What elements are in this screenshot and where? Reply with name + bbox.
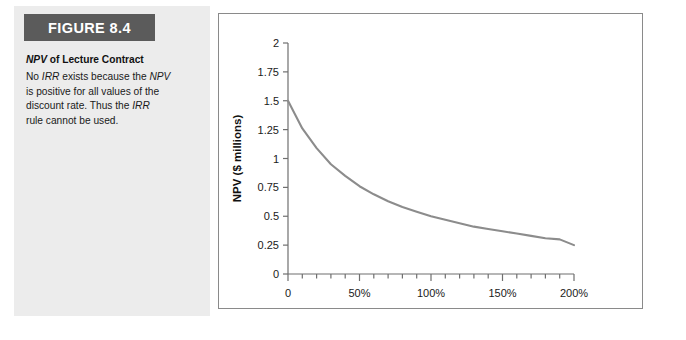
chart-plot-area: 00.250.50.7511.251.51.752050%100%150%200… — [231, 37, 588, 307]
x-tick-label: 200% — [560, 287, 588, 299]
caption-run: discount rate. Thus the — [26, 100, 132, 111]
figure-container: FIGURE 8.4 NPV of Lecture Contract No IR… — [0, 0, 686, 340]
caption-title-rest: of Lecture Contract — [47, 54, 144, 65]
caption-emphasis: NPV — [149, 71, 170, 82]
x-tick-label: 50% — [348, 287, 370, 299]
caption-panel: FIGURE 8.4 NPV of Lecture Contract No IR… — [14, 6, 210, 316]
y-tick-label: 2 — [273, 37, 279, 49]
caption-emphasis: IRR — [132, 100, 150, 111]
y-tick-label: 0.25 — [258, 239, 279, 251]
x-tick-label: 150% — [488, 287, 516, 299]
caption-body: NPV of Lecture Contract No IRR exists be… — [26, 52, 176, 128]
y-axis-title: NPV ($ millions) — [231, 115, 243, 203]
caption-title: NPV of Lecture Contract — [26, 52, 176, 67]
npv-curve — [288, 101, 574, 245]
caption-text: No IRR exists because the NPVis positive… — [26, 70, 176, 128]
caption-run: rule cannot be used. — [26, 115, 118, 126]
npv-discount-rate-chart: 00.250.50.7511.251.51.752050%100%150%200… — [219, 14, 641, 307]
caption-title-npv: NPV — [26, 54, 47, 65]
y-tick-label: 1.75 — [258, 66, 279, 78]
y-tick-label: 1 — [273, 153, 279, 165]
y-tick-label: 1.5 — [264, 95, 279, 107]
caption-line: No IRR exists because the NPV — [26, 70, 176, 85]
chart-panel: 00.250.50.7511.251.51.752050%100%150%200… — [218, 13, 643, 309]
y-tick-label: 0 — [273, 268, 279, 280]
caption-line: is positive for all values of the — [26, 85, 176, 100]
y-tick-label: 1.25 — [258, 124, 279, 136]
x-tick-label: 100% — [417, 287, 445, 299]
figure-number-badge: FIGURE 8.4 — [24, 14, 155, 41]
caption-run: is positive for all values of the — [26, 86, 159, 97]
caption-run: No — [26, 71, 42, 82]
caption-run: exists because the — [59, 71, 149, 82]
x-tick-label: 0 — [285, 287, 291, 299]
caption-emphasis: IRR — [42, 71, 60, 82]
caption-line: discount rate. Thus the IRR — [26, 99, 176, 114]
y-tick-label: 0.5 — [264, 210, 279, 222]
caption-line: rule cannot be used. — [26, 114, 176, 129]
y-tick-label: 0.75 — [258, 181, 279, 193]
